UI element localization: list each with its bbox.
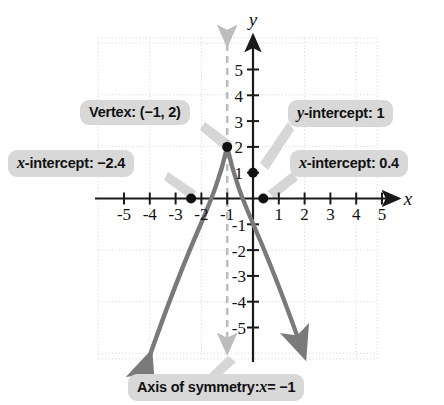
y-tick-label: 1	[235, 164, 244, 183]
x-tick-label: 5	[378, 205, 387, 224]
x-tick-label: 2	[300, 205, 309, 224]
x-tick-label: 1	[275, 205, 284, 224]
y-tick-label: -3	[232, 267, 246, 286]
point-y-intercept	[248, 168, 258, 178]
y-tick-labels-negative: -1 -2 -3 -4 -5	[232, 216, 247, 338]
callout-vertex-text: Vertex: (−1, 2)	[89, 104, 181, 120]
callout-x-intercept-right-text: -intercept: 0.4	[307, 155, 399, 171]
callout-y-intercept: y-intercept: 1	[288, 100, 393, 127]
x-tick-label: -5	[117, 205, 131, 224]
callout-x-intercept-right: x-intercept: 0.4	[290, 150, 408, 177]
point-x-intercept-right	[258, 194, 268, 204]
callout-y-intercept-text: -intercept: 1	[304, 105, 384, 121]
callout-x-intercept-right-variable: x	[299, 154, 307, 172]
callout-x-intercept-left: x-intercept: −2.4	[8, 150, 134, 177]
graph-figure: x y -5 -4 -3 -2 -1 1 2 3 4 5 5 4 3 2 1 -…	[0, 0, 444, 405]
callout-axis-of-symmetry-prefix: Axis of symmetry:	[137, 379, 259, 395]
x-tick-label: 3	[326, 205, 335, 224]
callout-x-intercept-left-text: -intercept: −2.4	[25, 155, 125, 171]
x-tick-label: -4	[143, 205, 158, 224]
callout-axis-of-symmetry-variable: x	[259, 378, 267, 396]
callout-axis-of-symmetry-text: = −1	[267, 379, 295, 395]
y-tick-label: 2	[235, 138, 244, 157]
y-tick-label: -4	[232, 293, 247, 312]
callout-x-intercept-left-variable: x	[17, 154, 25, 172]
y-axis-label: y	[247, 9, 258, 30]
leader-x-intercept-right	[268, 172, 298, 199]
y-tick-label: 3	[235, 113, 244, 132]
coordinate-plane: x y -5 -4 -3 -2 -1 1 2 3 4 5 5 4 3 2 1 -…	[0, 0, 444, 405]
point-x-intercept-left	[186, 194, 196, 204]
y-tick-label: -1	[232, 216, 246, 235]
callout-y-intercept-variable: y	[297, 104, 304, 122]
point-vertex	[222, 142, 232, 152]
y-tick-label: -5	[232, 319, 246, 338]
y-tick-label: -2	[232, 242, 246, 261]
y-tick-label: 5	[235, 61, 244, 80]
callout-vertex: Vertex: (−1, 2)	[80, 100, 190, 125]
y-tick-label: 4	[235, 87, 244, 106]
callout-axis-of-symmetry: Axis of symmetry: x = −1	[128, 374, 304, 401]
x-axis-label: x	[403, 188, 413, 209]
x-tick-label: -3	[169, 205, 183, 224]
x-tick-label: -2	[194, 205, 208, 224]
x-tick-label: 4	[352, 205, 361, 224]
y-tick-labels-positive: 5 4 3 2 1	[235, 61, 244, 183]
